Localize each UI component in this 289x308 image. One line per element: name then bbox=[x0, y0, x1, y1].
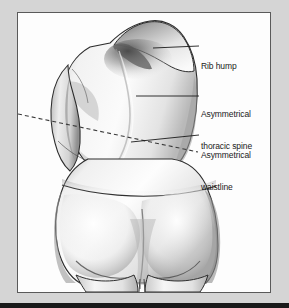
bottom-band bbox=[0, 303, 289, 308]
label-waistline-line1: Asymmetrical bbox=[201, 150, 251, 161]
label-rib-hump-line1: Rib hump bbox=[201, 61, 237, 72]
label-rib-hump: Rib hump bbox=[201, 40, 237, 93]
label-asymmetrical-waistline: Asymmetrical waistline bbox=[201, 129, 251, 213]
label-waistline-line2: waistline bbox=[201, 182, 251, 193]
torso-group bbox=[63, 21, 197, 181]
rib-hump-core-shade bbox=[104, 39, 172, 79]
hips-group bbox=[54, 159, 220, 289]
illustration-page: Rib hump Asymmetrical thoracic spine Asy… bbox=[0, 0, 289, 308]
label-thoracic-line1: Asymmetrical bbox=[201, 109, 252, 120]
